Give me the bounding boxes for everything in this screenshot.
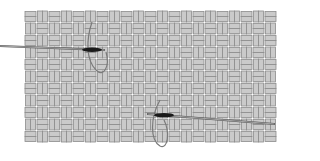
weave-cell	[133, 48, 144, 58]
weave-cell	[25, 60, 36, 70]
weave-cell	[146, 71, 156, 82]
weave-cell	[253, 24, 264, 34]
weave-cell	[25, 108, 36, 118]
weave-cell	[206, 107, 216, 118]
weave-cell	[61, 96, 72, 106]
weave-cell	[241, 60, 252, 70]
weave-cell	[193, 36, 204, 46]
weave-cell	[229, 96, 240, 106]
weave-cell	[253, 72, 264, 82]
weave-cell	[146, 23, 156, 34]
weave-cell	[217, 132, 228, 142]
weave-cell	[122, 95, 132, 106]
weave-cell	[206, 131, 216, 142]
weave-cell	[193, 60, 204, 70]
weave-cell	[121, 60, 132, 70]
weave-cell	[109, 96, 120, 106]
weave-cell	[37, 96, 48, 106]
weave-cell	[86, 83, 96, 94]
weave-cell	[205, 96, 216, 106]
weave-cell	[26, 71, 36, 82]
weave-cell	[230, 35, 240, 46]
weave-cell	[206, 11, 216, 22]
weave-cell	[193, 12, 204, 22]
weave-cell	[253, 48, 264, 58]
weave-cell	[169, 60, 180, 70]
weave-cell	[110, 11, 120, 22]
weave-cell	[169, 84, 180, 94]
weave-cell	[61, 24, 72, 34]
weave-cell	[50, 23, 60, 34]
weave-cell	[37, 72, 48, 82]
weave-cell	[110, 131, 120, 142]
weave-cell	[242, 47, 252, 58]
weave-cell	[97, 84, 108, 94]
weave-cell	[121, 12, 132, 22]
weave-cell	[97, 108, 108, 118]
weave-cell	[205, 72, 216, 82]
weave-cell	[73, 12, 84, 22]
weave-cell	[230, 83, 240, 94]
weave-cell	[50, 95, 60, 106]
weave-cell	[73, 132, 84, 142]
needle-thread-wrap	[154, 113, 174, 117]
weave-cell	[26, 47, 36, 58]
weave-cell	[145, 36, 156, 46]
weave-cell	[98, 23, 108, 34]
weave-cell	[217, 12, 228, 22]
weave-cell	[121, 36, 132, 46]
weave-cell	[265, 108, 276, 118]
weave-cell	[121, 84, 132, 94]
weave-cell	[193, 132, 204, 142]
weave-cell	[134, 59, 144, 70]
weave-cell	[61, 120, 72, 130]
weave-cell	[254, 59, 264, 70]
weave-cell	[50, 119, 60, 130]
weave-cell	[170, 95, 180, 106]
weave-cell	[73, 108, 84, 118]
weave-cell	[158, 35, 168, 46]
weave-cell	[73, 84, 84, 94]
weave-cell	[38, 131, 48, 142]
weave-cell	[170, 47, 180, 58]
weave-cell	[121, 132, 132, 142]
weave-cell	[218, 23, 228, 34]
weave-cell	[134, 83, 144, 94]
weave-cell	[265, 36, 276, 46]
weave-cell	[182, 11, 192, 22]
weave-cell	[25, 36, 36, 46]
weave-cell	[122, 71, 132, 82]
weave-cell	[109, 48, 120, 58]
weave-cell	[218, 71, 228, 82]
weave-cell	[265, 84, 276, 94]
weave-cell	[133, 120, 144, 130]
weave-cell	[122, 119, 132, 130]
weave-cell	[97, 12, 108, 22]
weave-cell	[74, 95, 84, 106]
weave-cell	[181, 48, 192, 58]
weave-cell	[241, 12, 252, 22]
weave-cell	[145, 12, 156, 22]
weave-cell	[97, 36, 108, 46]
weave-cell	[230, 107, 240, 118]
weave-cell	[74, 119, 84, 130]
weave-cell	[217, 60, 228, 70]
weave-cell	[194, 71, 204, 82]
weave-cell	[109, 120, 120, 130]
weave-cell	[157, 72, 168, 82]
weave-cell	[205, 120, 216, 130]
weave-cell	[229, 72, 240, 82]
weave-cell	[26, 95, 36, 106]
weave-cell	[182, 35, 192, 46]
weave-cell	[241, 84, 252, 94]
weave-cell	[49, 12, 60, 22]
weave-cell	[266, 95, 276, 106]
weave-cell	[85, 72, 96, 82]
weave-cell	[157, 24, 168, 34]
weave-cell	[194, 47, 204, 58]
weave-cell	[170, 119, 180, 130]
weave-cell	[194, 95, 204, 106]
weave-cell	[241, 36, 252, 46]
weave-cell	[134, 107, 144, 118]
weave-cell	[122, 47, 132, 58]
